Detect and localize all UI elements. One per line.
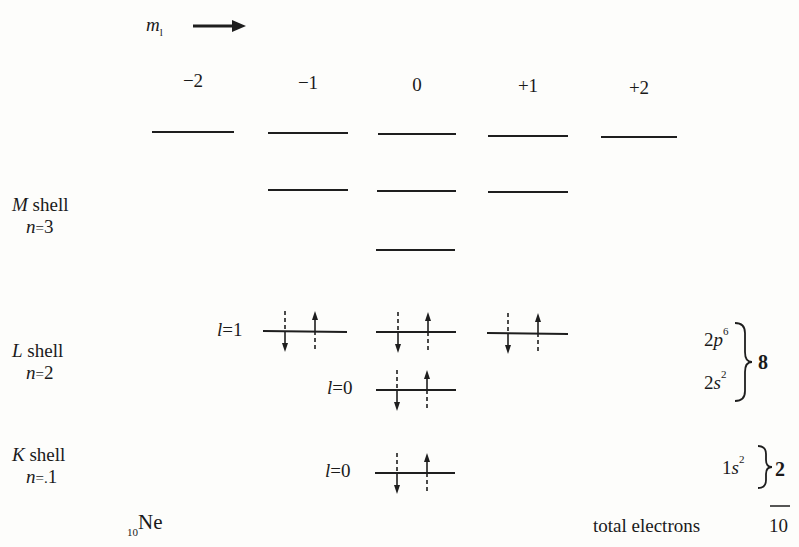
spin-pair-arrows-icon (282, 311, 318, 352)
m-shell-d-orbital-0 (378, 133, 456, 135)
m-shell-label: M shell n=3 (12, 194, 68, 239)
m-shell-d-orbital-minus2 (152, 131, 234, 133)
config-2s-exponent: 2 (721, 368, 727, 380)
m-shell-d-orbital-minus1 (268, 132, 348, 134)
k-shell-word: shell (29, 444, 65, 465)
k-l0-value: =0 (330, 460, 350, 481)
m-shell-n-value: 3 (44, 216, 54, 237)
m-shell-p-orbital-plus1 (488, 191, 568, 193)
k-shell-brace-icon (758, 446, 772, 488)
spin-pair-arrows-icon (394, 453, 430, 494)
ml-value-minus1: −1 (278, 72, 338, 94)
config-2p: 2p6 (704, 329, 729, 351)
ml-value-plus2: +2 (609, 77, 669, 99)
m-shell-p-orbital-0 (377, 190, 456, 192)
m-shell-s-orbital-0 (376, 249, 455, 251)
config-2p-base: 2p (704, 329, 723, 350)
k-shell-s-orbital (375, 453, 455, 494)
l-shell-p-orbital-plus1 (487, 313, 568, 354)
element-symbol: 10Ne (127, 510, 163, 536)
l-shell-label: L shell n=2 (12, 340, 63, 385)
config-1s-base: 1s (722, 457, 739, 478)
l-shell-l1-label: l=1 (217, 319, 243, 341)
k-shell-n-value: 1 (48, 466, 58, 487)
ml-value-plus1: +1 (498, 75, 558, 97)
l-shell-n-value: 2 (44, 362, 54, 383)
k-shell-total: 2 (775, 458, 785, 481)
ml-axis-label: ml (146, 14, 163, 38)
l-shell-p-orbital-minus1 (263, 311, 347, 352)
element-name: Ne (138, 510, 163, 534)
spin-pair-arrows-icon (394, 370, 430, 411)
l-shell-s-orbital (376, 370, 456, 411)
config-1s: 1s2 (722, 457, 744, 479)
config-2s-base: 2s (704, 372, 721, 393)
l0-value: =0 (332, 377, 352, 398)
spin-pair-arrows-icon (505, 313, 541, 354)
config-1s-exponent: 2 (739, 453, 745, 465)
ml-subscript: l (160, 26, 163, 38)
k-shell-label: K shell n=.1 (12, 444, 65, 489)
l-shell-letter: L (12, 340, 23, 361)
l1-value: =1 (222, 319, 242, 340)
ml-symbol: m (146, 14, 160, 35)
l-shell-p-orbital-0 (376, 312, 456, 353)
m-shell-letter: M (12, 194, 28, 215)
total-electrons-value: 10 (769, 515, 788, 537)
l-shell-word: shell (27, 340, 63, 361)
config-2s: 2s2 (704, 372, 726, 394)
m-shell-word: shell (33, 194, 69, 215)
k-shell-l0-label: l=0 (325, 460, 351, 482)
m-shell-d-orbital-plus1 (488, 135, 568, 137)
l-shell-l0-label: l=0 (327, 377, 353, 399)
l-shell-total: 8 (758, 351, 768, 374)
total-electrons-label: total electrons (593, 515, 700, 537)
atomic-number: 10 (127, 526, 138, 538)
spin-pair-arrows-icon (395, 312, 431, 353)
m-shell-d-orbital-plus2 (601, 136, 677, 138)
m-shell-n: n (26, 216, 36, 237)
k-shell-n: n (26, 466, 36, 487)
ml-value-minus2: −2 (163, 70, 223, 92)
k-shell-letter: K (12, 444, 25, 465)
l-shell-brace-icon (735, 323, 752, 401)
m-shell-p-orbital-minus1 (268, 189, 348, 191)
l-shell-n: n (26, 362, 36, 383)
config-2p-exponent: 6 (723, 325, 729, 337)
ml-value-0: 0 (387, 74, 447, 96)
